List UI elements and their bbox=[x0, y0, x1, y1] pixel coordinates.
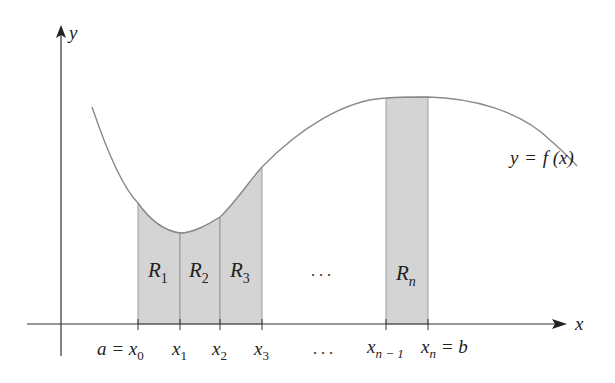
tick-labels: a = x0 x1 x2 x3 . . . xn − 1 xn = b bbox=[97, 336, 468, 363]
tick-label-x2: x2 bbox=[211, 338, 227, 363]
riemann-sum-diagram: y x y = f (x) R1 R2 R3 . . . Rn a = x0 x… bbox=[0, 0, 615, 383]
x-axis-label: x bbox=[574, 313, 584, 334]
curve-f bbox=[92, 97, 577, 233]
tick-ellipsis: . . . bbox=[313, 340, 333, 357]
rectangles bbox=[138, 97, 428, 324]
rectangle-rn bbox=[386, 97, 428, 324]
rectangle-r3 bbox=[220, 167, 262, 324]
tick-label-x0: a = x0 bbox=[97, 338, 144, 363]
curve-label-f: f bbox=[543, 147, 551, 168]
curve-label: y = f (x) bbox=[508, 147, 574, 169]
curve-label-y: y bbox=[508, 147, 519, 168]
curve-label-arg: (x) bbox=[553, 147, 574, 169]
tick-label-xn: xn = b bbox=[420, 336, 468, 361]
curve-label-eq: = bbox=[525, 147, 536, 168]
tick-label-x3: x3 bbox=[253, 338, 269, 363]
rect-ellipsis: . . . bbox=[311, 262, 331, 279]
y-axis-label: y bbox=[67, 22, 78, 43]
tick-label-x1: x1 bbox=[171, 338, 187, 363]
axes bbox=[27, 25, 567, 356]
tick-label-xn-1: xn − 1 bbox=[366, 336, 404, 361]
